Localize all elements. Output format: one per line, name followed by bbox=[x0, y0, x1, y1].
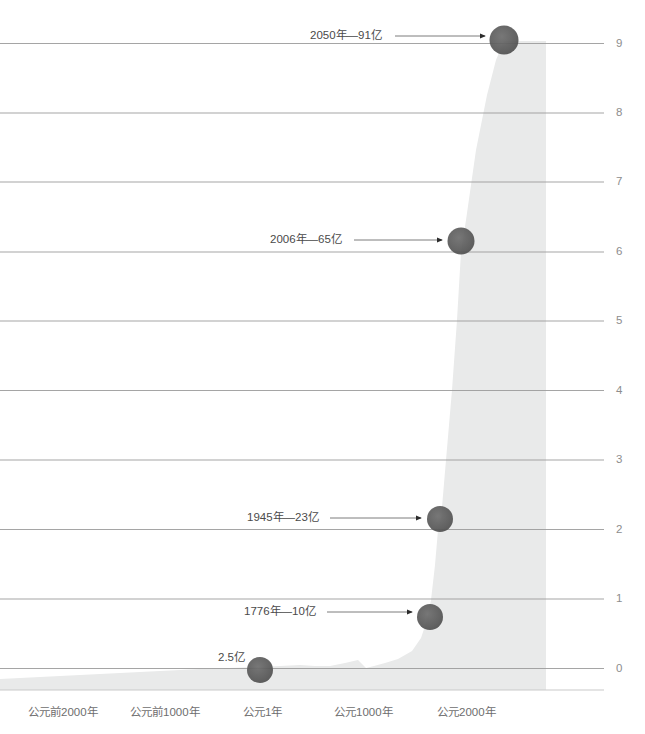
x-tick-label-ce1: 公元1年 bbox=[243, 707, 282, 719]
annotation-label-2050: 2050年—91亿 bbox=[310, 30, 382, 42]
data-marker-2006[interactable] bbox=[448, 228, 475, 255]
chart-canvas bbox=[0, 0, 645, 734]
population-area-path bbox=[0, 41, 546, 690]
x-tick-label-bce2000: 公元前2000年 bbox=[28, 707, 98, 719]
x-tick-label-bce1000: 公元前1000年 bbox=[130, 707, 200, 719]
y-tick-label-3: 3 bbox=[616, 454, 623, 466]
y-tick-label-4: 4 bbox=[616, 385, 623, 397]
y-tick-label-5: 5 bbox=[616, 315, 623, 327]
y-tick-label-1: 1 bbox=[616, 593, 623, 605]
y-tick-label-0: 0 bbox=[616, 663, 623, 675]
y-tick-label-8: 8 bbox=[616, 107, 623, 119]
annotation-label-1945: 1945年—23亿 bbox=[247, 512, 319, 524]
annotation-label-2006: 2006年—65亿 bbox=[270, 234, 342, 246]
annotation-label-1776: 1776年—10亿 bbox=[244, 606, 316, 618]
data-marker-2050[interactable] bbox=[490, 26, 519, 55]
area-series bbox=[0, 41, 546, 690]
x-tick-label-ce2000: 公元2000年 bbox=[437, 707, 496, 719]
data-marker-1776[interactable] bbox=[417, 604, 443, 630]
y-tick-label-6: 6 bbox=[616, 246, 623, 258]
data-marker-1945[interactable] bbox=[427, 506, 453, 532]
data-marker-year1[interactable] bbox=[247, 657, 273, 683]
x-tick-label-ce1000: 公元1000年 bbox=[334, 707, 393, 719]
annotation-label-year1: 2.5亿 bbox=[218, 652, 245, 664]
y-tick-label-7: 7 bbox=[616, 176, 623, 188]
y-tick-label-9: 9 bbox=[616, 38, 623, 50]
population-growth-chart: 9 8 7 6 5 4 3 2 1 0 公元前2000年 公元前1000年 公元… bbox=[0, 0, 645, 734]
y-tick-label-2: 2 bbox=[616, 524, 623, 536]
